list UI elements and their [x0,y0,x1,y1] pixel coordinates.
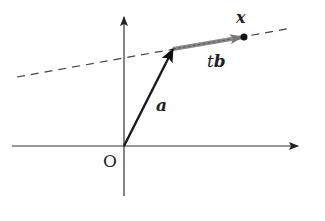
vector-b-symbol: b [214,51,226,71]
vector-a-label: a [156,95,167,115]
point-x-dot [241,34,248,41]
origin-label: O [103,151,117,171]
vector-line-diagram: x tb a O [0,0,325,221]
point-x-label: x [235,8,246,27]
vector-tb-label: tb [207,51,226,71]
dashed-line [17,28,292,77]
